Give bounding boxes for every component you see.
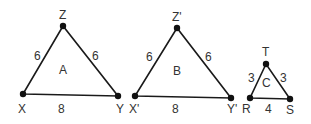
vertex-dot — [174, 25, 180, 31]
side-length-label: 4 — [265, 102, 272, 116]
vertex-label: X' — [129, 102, 139, 116]
side-length-label: 6 — [146, 50, 153, 64]
vertex-dot — [247, 95, 253, 101]
side-length-label: 8 — [172, 102, 179, 116]
vertex-dot — [287, 96, 293, 102]
vertex-dot — [263, 61, 269, 67]
vertex-label: S — [286, 103, 294, 117]
side-length-label: 8 — [58, 102, 65, 116]
triangle-name-label: B — [173, 64, 181, 78]
vertex-label: Z' — [172, 10, 182, 24]
side-length-label: 6 — [34, 49, 41, 63]
vertex-dot — [20, 91, 26, 97]
triangle-c: RST334C — [242, 45, 294, 117]
vertex-label: T — [262, 45, 270, 59]
side-length-label: 3 — [280, 71, 287, 85]
vertex-dot — [60, 23, 66, 29]
triangle-name-label: A — [59, 63, 67, 77]
similar-triangles-diagram: XYZ668AX'Y'Z'668BRST334C — [0, 0, 311, 124]
vertex-label: X — [18, 102, 26, 116]
vertex-label: R — [242, 102, 251, 116]
vertex-label: Y' — [227, 102, 237, 116]
vertex-label: Z — [59, 8, 66, 22]
triangle-b: X'Y'Z'668B — [129, 10, 237, 116]
vertex-dot — [228, 95, 234, 101]
side-length-label: 3 — [248, 71, 255, 85]
vertex-dot — [132, 93, 138, 99]
vertex-dot — [115, 93, 121, 99]
triangle-a: XYZ668A — [18, 8, 124, 116]
vertex-label: Y — [116, 102, 124, 116]
triangle-name-label: C — [262, 76, 271, 90]
side-length-label: 6 — [92, 49, 99, 63]
side-length-label: 6 — [205, 50, 212, 64]
